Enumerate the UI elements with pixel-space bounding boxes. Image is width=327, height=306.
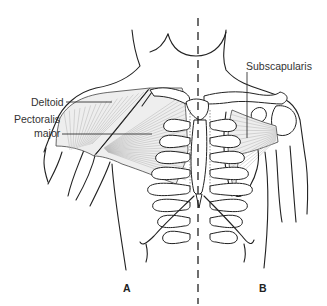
right-rib	[210, 151, 244, 163]
xiphoid-process	[196, 194, 202, 208]
right-rib	[210, 135, 240, 147]
right-floating-rib	[244, 244, 246, 262]
right-arm-line-1	[276, 150, 282, 222]
right-arm-line-2	[290, 146, 296, 222]
left-rib	[163, 231, 190, 243]
anatomy-diagram: Deltoid Pectoralis major Subscapularis A…	[0, 0, 327, 306]
right-rib	[210, 231, 237, 243]
left-rib	[152, 167, 190, 179]
manubrium	[186, 99, 209, 120]
panel-a-label: A	[123, 282, 131, 294]
left-rib	[164, 119, 190, 131]
panel-b-label: B	[259, 282, 267, 294]
left-torso-side	[112, 164, 126, 270]
left-flank-outline	[90, 162, 110, 206]
right-rib	[210, 167, 248, 179]
left-rib	[148, 183, 190, 195]
right-rib	[210, 199, 247, 211]
left-arm-outline	[44, 148, 48, 182]
chin-curve	[168, 32, 226, 56]
left-rib	[160, 135, 190, 147]
left-floating-rib	[146, 244, 148, 262]
pectoralis-label-line2: major	[34, 127, 61, 139]
subscapularis-label: Subscapularis	[246, 60, 312, 72]
chin-curve-left	[150, 34, 168, 52]
left-arm-inner-1	[48, 152, 62, 184]
right-clavicle	[204, 92, 287, 104]
pectoralis-label-line1: Pectoralis	[14, 113, 60, 125]
right-torso-side	[264, 152, 268, 268]
right-rib	[210, 183, 252, 195]
right-rib	[210, 119, 236, 131]
left-rib	[156, 151, 190, 163]
sternum-body	[191, 120, 207, 196]
right-rib	[210, 215, 242, 227]
deltoid-label: Deltoid	[31, 96, 64, 108]
left-arm-inner-3	[76, 152, 96, 200]
left-rib	[158, 215, 190, 227]
